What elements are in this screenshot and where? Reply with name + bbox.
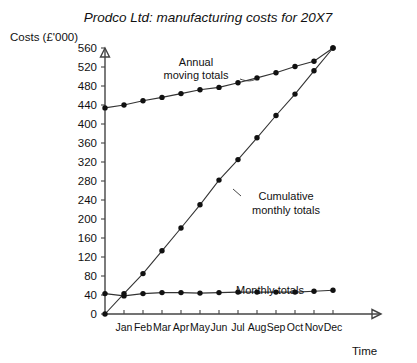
annotation-cumulative-line2: monthly totals [252, 204, 320, 216]
data-point [178, 91, 183, 96]
data-point [273, 70, 278, 75]
x-tick-label-oct: Oct [287, 321, 303, 333]
data-point [254, 135, 259, 140]
annotation-cumulative-line1: Cumulative [258, 190, 313, 202]
x-tick-label-sep: Sep [267, 321, 286, 333]
x-tick-label-jan: Jan [116, 321, 133, 333]
data-point [197, 87, 202, 92]
data-point [178, 290, 183, 295]
data-point [216, 177, 221, 182]
data-point [140, 291, 145, 296]
y-tick-label: 0 [91, 308, 97, 320]
x-tick-label-jul: Jul [231, 321, 244, 333]
y-tick-label: 120 [78, 251, 97, 263]
data-point [197, 202, 202, 207]
data-point [235, 80, 240, 85]
data-point [140, 271, 145, 276]
data-point [311, 68, 316, 73]
x-tick-label-feb: Feb [134, 321, 152, 333]
annotation-annual-moving-totals: Annual moving totals [164, 56, 256, 81]
y-tick-label: 480 [78, 80, 97, 92]
y-axis-label: Costs (£'000) [10, 31, 78, 43]
data-point [330, 45, 335, 50]
y-tick-label: 560 [78, 42, 97, 54]
data-point [102, 291, 107, 296]
x-tick-label-may: May [190, 321, 211, 333]
data-point [273, 113, 278, 118]
y-tick-label: 160 [78, 232, 97, 244]
annotation-monthly-totals: Monthly totals [236, 284, 304, 296]
x-tick-label-nov: Nov [305, 321, 324, 333]
data-point [102, 105, 107, 110]
y-tick-label: 360 [78, 137, 97, 149]
data-point [159, 95, 164, 100]
annotation-annual-line2: moving totals [164, 69, 229, 81]
annotation-annual-line1: Annual [179, 56, 213, 68]
data-point [178, 225, 183, 230]
x-tick-label-mar: Mar [153, 321, 172, 333]
line-chart: Prodco Ltd: manufacturing costs for 20X7… [0, 0, 417, 363]
y-tick-label: 80 [84, 270, 97, 282]
data-point [140, 98, 145, 103]
x-tick-label-aug: Aug [248, 321, 267, 333]
x-tick-label-jun: Jun [211, 321, 228, 333]
x-tick-label-dec: Dec [324, 321, 343, 333]
y-tick-label: 440 [78, 99, 97, 111]
y-tick-label: 400 [78, 118, 97, 130]
annotation-cumulative-monthly-totals: Cumulative monthly totals [233, 189, 320, 216]
chart-container: Prodco Ltd: manufacturing costs for 20X7… [0, 0, 417, 363]
x-axis-label: Time [352, 345, 377, 357]
data-point [121, 293, 126, 298]
data-point [197, 290, 202, 295]
y-tick-label: 40 [84, 289, 97, 301]
y-tick-label: 280 [78, 175, 97, 187]
series-layer [102, 45, 335, 316]
annotation-monthly-line1: Monthly totals [236, 284, 304, 296]
data-point [121, 102, 126, 107]
data-point [159, 248, 164, 253]
data-point [235, 157, 240, 162]
data-point [216, 85, 221, 90]
data-point [292, 64, 297, 69]
x-axis-month-labels: JanFebMarAprMayJunJulAugSepOctNovDec [116, 321, 343, 333]
chart-title: Prodco Ltd: manufacturing costs for 20X7 [84, 10, 333, 25]
data-point [102, 311, 107, 316]
y-tick-label: 520 [78, 61, 97, 73]
y-axis-ticks: 0408012016020024028032036040044048052056… [78, 42, 105, 320]
data-point [311, 289, 316, 294]
annotation-cumulative-leader [233, 189, 241, 196]
data-point [292, 91, 297, 96]
y-tick-label: 240 [78, 194, 97, 206]
data-point [311, 59, 316, 64]
data-point [216, 290, 221, 295]
y-tick-label: 320 [78, 156, 97, 168]
data-point [330, 288, 335, 293]
y-tick-label: 200 [78, 213, 97, 225]
data-point [159, 290, 164, 295]
x-tick-label-apr: Apr [173, 321, 190, 333]
